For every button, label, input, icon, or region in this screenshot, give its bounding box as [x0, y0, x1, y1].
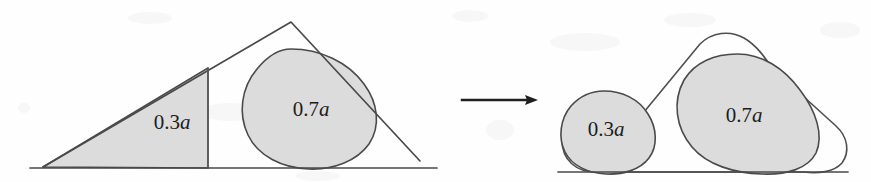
figure-canvas: 0.3a 0.7a 0.3a 0.7 [0, 0, 871, 182]
figure-container: 0.3a 0.7a 0.3a 0.7 [0, 0, 871, 182]
transformation-arrow [462, 95, 538, 105]
left-panel-group: 0.3a 0.7a [30, 22, 437, 169]
left-shaded-label: 0.3a [154, 110, 191, 134]
right-panel-group: 0.3a 0.7a [558, 33, 848, 174]
left-blob-label: 0.7a [293, 97, 330, 121]
right-small-blob-label: 0.3a [588, 117, 625, 141]
right-large-blob-label: 0.7a [726, 103, 763, 127]
